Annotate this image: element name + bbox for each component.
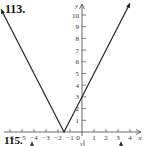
next-figure-y-label: y: [79, 141, 83, 146]
y-tick-label: 3: [76, 93, 80, 101]
x-tick-label: 2: [104, 134, 108, 142]
y-tick-label: 4: [76, 82, 80, 90]
x-tick-label: 3: [116, 134, 120, 142]
y-tick-label: 5: [76, 70, 80, 78]
x-tick-label: −1: [66, 134, 74, 142]
absolute-value-graph: −6−5−4−3−2−101234x12345678910yy: [0, 0, 145, 146]
x-tick-label: −6: [6, 134, 14, 142]
y-tick-label: 10: [72, 12, 80, 20]
y-tick-label: 9: [76, 23, 80, 31]
y-tick-label: 8: [76, 35, 80, 43]
x-tick-label: −4: [30, 134, 38, 142]
y-tick-label: 7: [76, 47, 80, 55]
graph-line: [1, 3, 130, 132]
x-tick-label: 4: [128, 134, 132, 142]
y-tick-label: 1: [76, 117, 80, 125]
y-axis-label: y: [74, 2, 79, 10]
y-tick-label: 6: [76, 58, 80, 66]
x-tick-label: −2: [54, 134, 62, 142]
x-tick-label: −3: [42, 134, 50, 142]
x-tick-label: 1: [92, 134, 96, 142]
x-tick-label: −5: [18, 134, 26, 142]
x-axis-label: x: [137, 134, 142, 142]
